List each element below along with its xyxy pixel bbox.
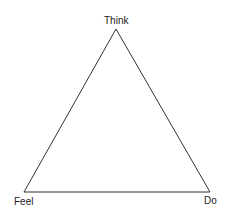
vertex-label-think: Think (104, 16, 128, 26)
vertex-label-do: Do (204, 196, 217, 206)
triangle-diagram (0, 0, 239, 223)
vertex-label-feel: Feel (14, 197, 33, 207)
triangle-shape (24, 29, 210, 192)
